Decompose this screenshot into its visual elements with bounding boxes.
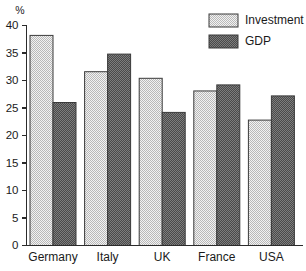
y-tick-label: 5 — [12, 212, 18, 224]
bar-uk-investment — [139, 78, 162, 245]
y-axis: 0510152025303540% — [6, 4, 27, 251]
bar-germany-investment — [30, 35, 53, 245]
bar-italy-investment — [85, 72, 108, 246]
legend-swatch-investment — [209, 14, 238, 27]
y-tick-label: 40 — [6, 19, 19, 31]
category-label-usa: USA — [259, 250, 284, 264]
category-label-france: France — [198, 250, 236, 264]
chart-canvas: 0510152025303540% GermanyItalyUKFranceUS… — [0, 0, 306, 271]
legend-swatch-gdp — [209, 35, 238, 48]
y-axis-unit-label: % — [15, 4, 24, 16]
y-tick-label: 15 — [6, 157, 19, 169]
y-tick-label: 20 — [6, 129, 19, 141]
category-label-germany: Germany — [28, 250, 77, 264]
bar-germany-gdp — [53, 103, 76, 246]
legend-label-investment: Investment — [245, 13, 304, 27]
y-tick-label: 10 — [6, 184, 19, 196]
bar-france-gdp — [217, 85, 240, 246]
bar-france-investment — [194, 91, 217, 246]
y-tick-label: 35 — [6, 47, 19, 59]
bar-usa-gdp — [271, 96, 294, 246]
legend: InvestmentGDP — [209, 13, 304, 48]
y-tick-label: 0 — [12, 239, 18, 251]
category-label-italy: Italy — [97, 250, 119, 264]
y-tick-label: 25 — [6, 102, 19, 114]
legend-label-gdp: GDP — [245, 34, 271, 48]
bars-layer — [30, 35, 294, 245]
bar-italy-gdp — [108, 54, 131, 245]
bar-uk-gdp — [162, 112, 185, 245]
bar-chart: 0510152025303540% GermanyItalyUKFranceUS… — [0, 0, 306, 271]
bar-usa-investment — [248, 120, 271, 245]
category-label-uk: UK — [154, 250, 171, 264]
y-tick-label: 30 — [6, 74, 19, 86]
category-labels: GermanyItalyUKFranceUSA — [28, 250, 283, 264]
